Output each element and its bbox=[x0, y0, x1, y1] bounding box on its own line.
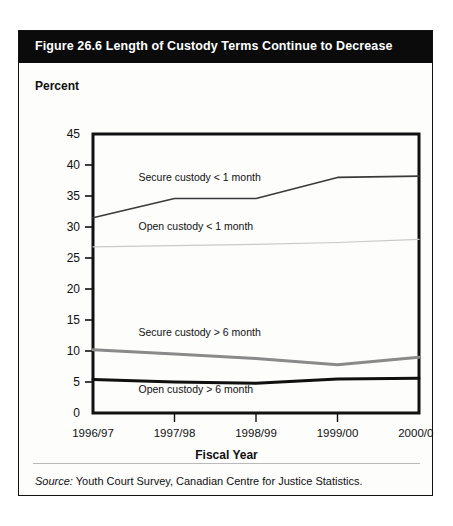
source-note: Source: Youth Court Survey, Canadian Cen… bbox=[35, 475, 363, 487]
figure-title-bar: Figure 26.6 Length of Custody Terms Cont… bbox=[19, 31, 432, 63]
y-tick-label: 5 bbox=[73, 375, 80, 389]
series-labels-group: Secure custody < 1 monthOpen custody < 1… bbox=[139, 171, 261, 396]
y-tick-label: 40 bbox=[67, 158, 81, 172]
y-tick-label: 45 bbox=[67, 127, 81, 141]
series-lines-group bbox=[93, 176, 419, 383]
y-tick-label: 30 bbox=[67, 220, 81, 234]
y-tick-label: 35 bbox=[67, 189, 81, 203]
series-inline-label: Open custody > 6 month bbox=[139, 383, 254, 395]
x-tick-label: 1997/98 bbox=[154, 427, 196, 439]
source-text: Youth Court Survey, Canadian Centre for … bbox=[73, 475, 363, 487]
footer-divider bbox=[33, 463, 420, 464]
series-inline-label: Open custody < 1 month bbox=[139, 220, 254, 232]
chart-plot-area: 051015202530354045 Secure custody < 1 mo… bbox=[19, 71, 434, 441]
source-label: Source: bbox=[35, 475, 73, 487]
x-tick-label: 1999/00 bbox=[317, 427, 359, 439]
series-inline-label: Secure custody < 1 month bbox=[139, 171, 261, 183]
line-chart: 051015202530354045 Secure custody < 1 mo… bbox=[19, 71, 434, 441]
x-axis-title: Fiscal Year bbox=[19, 448, 434, 462]
x-axis-tick-labels: 1996/971997/981998/991999/002000/01 bbox=[72, 427, 434, 439]
y-tick-label: 25 bbox=[67, 251, 81, 265]
figure-card: Figure 26.6 Length of Custody Terms Cont… bbox=[18, 30, 433, 496]
y-tick-label: 15 bbox=[67, 313, 81, 327]
y-tick-label: 0 bbox=[73, 406, 80, 420]
figure-title: Figure 26.6 Length of Custody Terms Cont… bbox=[35, 39, 393, 53]
y-axis-ticks: 051015202530354045 bbox=[67, 127, 93, 420]
series-inline-label: Secure custody > 6 month bbox=[139, 326, 261, 338]
y-tick-label: 10 bbox=[67, 344, 81, 358]
series-line bbox=[93, 239, 419, 246]
x-tick-label: 1998/99 bbox=[235, 427, 277, 439]
series-line bbox=[93, 350, 419, 365]
x-tick-label: 1996/97 bbox=[72, 427, 114, 439]
x-tick-label: 2000/01 bbox=[398, 427, 434, 439]
y-tick-label: 20 bbox=[67, 282, 81, 296]
